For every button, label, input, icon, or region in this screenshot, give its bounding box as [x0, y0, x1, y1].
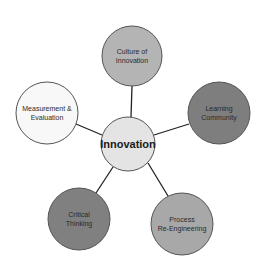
spoke-diagram: Innovation Culture of Innovation Learnin…: [0, 0, 264, 266]
connector-culture: [131, 86, 132, 117]
connector-learning: [154, 124, 189, 135]
node-learning-label: Learning Community: [189, 104, 249, 122]
connector-critical: [96, 167, 113, 193]
connector-process: [148, 163, 168, 196]
node-measurement-label: Measurement & Evaluation: [15, 104, 79, 122]
connector-measurement: [76, 124, 102, 135]
center-label: Innovation: [98, 138, 158, 150]
node-culture-label: Culture of Innovation: [102, 47, 162, 65]
node-process-label: Process Re-Engineering: [149, 215, 215, 233]
node-critical-label: Critical Thinking: [49, 210, 109, 228]
diagram-graphics: [0, 0, 264, 266]
